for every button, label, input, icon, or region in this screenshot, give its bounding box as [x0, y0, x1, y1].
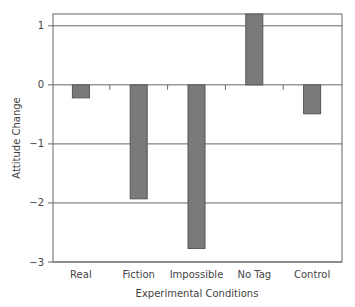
- bar-fiction: [130, 85, 147, 199]
- x-tick-label: Real: [70, 269, 92, 280]
- y-axis-ticks: 10−1−2−3: [29, 20, 53, 267]
- bars: [72, 14, 320, 248]
- x-tick-label: Fiction: [122, 269, 154, 280]
- bar-chart: 10−1−2−3 RealFictionImpossibleNo TagCont…: [0, 0, 355, 307]
- bar-control: [304, 85, 321, 114]
- x-tick-label: Control: [294, 269, 330, 280]
- y-tick-label: −2: [29, 197, 44, 208]
- x-tick-label: No Tag: [237, 269, 271, 280]
- x-axis-title: Experimental Conditions: [136, 288, 259, 299]
- bar-impossible: [188, 85, 205, 249]
- y-axis-title: Attitude Change: [11, 97, 22, 179]
- y-tick-label: 0: [38, 79, 44, 90]
- y-tick-label: −1: [29, 138, 44, 149]
- bar-no-tag: [246, 14, 263, 85]
- y-tick-label: 1: [38, 20, 44, 31]
- x-tick-label: Impossible: [170, 269, 224, 280]
- bar-real: [72, 85, 89, 98]
- y-tick-label: −3: [29, 257, 44, 268]
